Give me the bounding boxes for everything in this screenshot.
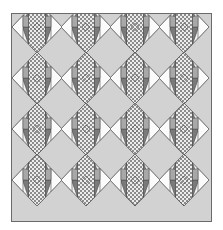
quilt-block <box>159 52 209 104</box>
image-canvas: on-point-diamond-quilt <box>0 0 223 230</box>
quilt-block <box>61 103 111 155</box>
quilt-block <box>61 52 111 104</box>
quilt-blocks-svg <box>12 14 211 221</box>
quilt-layout <box>12 14 211 221</box>
quilt-block <box>159 14 209 53</box>
quilt-block <box>159 154 209 206</box>
quilt-block <box>110 154 160 206</box>
quilt-block <box>61 154 111 206</box>
quilt-block <box>61 14 111 53</box>
quilt-block <box>12 154 62 206</box>
quilt-block <box>110 14 160 53</box>
quilt-block <box>110 52 160 104</box>
quilt-block <box>12 14 62 53</box>
quilt-block <box>159 103 209 155</box>
quilt-block <box>12 52 62 104</box>
quilt-border <box>11 13 212 222</box>
quilt-block <box>12 103 62 155</box>
quilt-block <box>110 103 160 155</box>
